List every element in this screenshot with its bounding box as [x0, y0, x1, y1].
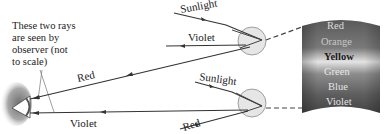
arrow-icon [32, 111, 39, 115]
annotation-line-1: These two rays [12, 20, 76, 31]
rainbow-band: Red Orange Yellow Green Blue Violet [302, 20, 380, 113]
bottom-raindrop: Sunlight Red Violet [30, 70, 266, 133]
annotation-line-2: are seen by [12, 32, 60, 43]
arrow-icon [32, 95, 40, 99]
bottom-red-label: Red [181, 116, 202, 133]
top-red-label: Red [76, 68, 96, 84]
top-sunlight-label: Sunlight [179, 0, 218, 15]
arrow-icon [126, 72, 133, 76]
arrow-icon [180, 44, 185, 48]
observer-eye-icon [0, 82, 32, 126]
band-red: Red [327, 20, 345, 31]
band-orange: Orange [321, 36, 352, 47]
band-violet: Violet [326, 96, 352, 107]
band-green: Green [324, 66, 350, 77]
rainbow-diagram: These two rays are seen by observer (not… [0, 0, 385, 134]
annotation-line-4: to scale) [12, 56, 48, 68]
band-blue: Blue [328, 81, 348, 92]
projection-line-top [266, 27, 302, 40]
annotation-line-3: observer (not [12, 44, 68, 56]
arrow-icon [100, 110, 106, 114]
band-yellow: Yellow [324, 51, 354, 62]
violet-ray-top [166, 45, 246, 46]
violet-ray-to-eye [30, 110, 248, 113]
bottom-violet-label: Violet [70, 117, 97, 129]
annotation-pointer-violet [40, 70, 54, 112]
top-violet-label: Violet [188, 31, 215, 43]
